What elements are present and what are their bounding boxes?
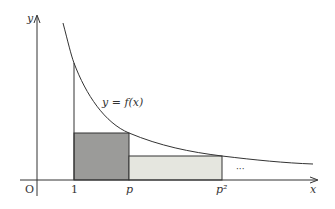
origin-label: O <box>25 183 34 196</box>
diagram-canvas: y x O 1 p p² y = f(x) ··· <box>0 0 335 209</box>
light-rectangle <box>129 156 222 180</box>
x-axis-label: x <box>310 183 317 196</box>
tick-label-1: 1 <box>71 183 78 196</box>
tick-label-p: p <box>126 183 133 196</box>
continuation-dots: ··· <box>236 164 245 174</box>
curve-label: y = f(x) <box>101 96 143 109</box>
y-axis-label: y <box>26 12 34 25</box>
dark-rectangle <box>74 133 129 180</box>
tick-label-p-squared: p² <box>216 183 227 196</box>
